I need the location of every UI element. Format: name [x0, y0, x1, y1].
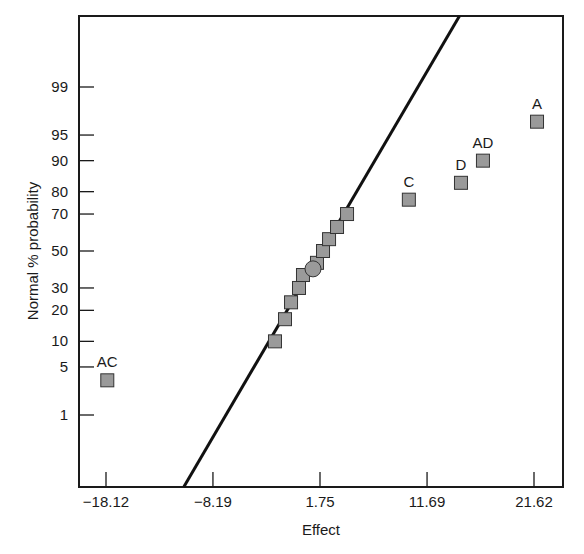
y-tick-label: 95 — [51, 126, 68, 143]
normal-probability-plot: 15102030507080909599 −18.12−8.191.7511.6… — [0, 0, 584, 554]
y-axis-title: Normal % probability — [24, 181, 41, 320]
y-tick-label: 50 — [51, 242, 68, 259]
point-label-d: D — [456, 156, 467, 173]
effect-point-marker — [531, 115, 544, 128]
effect-point-marker — [402, 193, 415, 206]
data-points: ACCDADA — [97, 95, 544, 387]
y-tick-label: 1 — [60, 406, 68, 423]
effect-point-marker — [341, 208, 354, 221]
effect-point-marker — [476, 154, 489, 167]
x-tick-label: −18.12 — [83, 493, 129, 510]
point-label-c: C — [403, 173, 414, 190]
y-axis-ticks: 15102030507080909599 — [51, 78, 94, 423]
center-point-marker — [305, 261, 321, 277]
effect-point-marker — [285, 296, 298, 309]
point-label-ac: AC — [97, 353, 118, 370]
y-tick-label: 10 — [51, 332, 68, 349]
point-label-a: A — [532, 95, 542, 112]
y-tick-label: 99 — [51, 78, 68, 95]
effect-point-marker — [317, 245, 330, 258]
x-tick-label: −8.19 — [194, 493, 232, 510]
x-tick-label: 1.75 — [305, 493, 334, 510]
y-tick-label: 90 — [51, 152, 68, 169]
effect-point-marker — [331, 220, 344, 233]
x-tick-label: 11.69 — [409, 493, 445, 510]
effect-point-marker — [278, 313, 291, 326]
x-axis-title: Effect — [302, 521, 341, 538]
y-tick-label: 5 — [60, 358, 68, 375]
y-tick-label: 70 — [51, 205, 68, 222]
x-tick-label: 21.62 — [515, 493, 553, 510]
point-label-ad: AD — [473, 134, 494, 151]
y-tick-label: 30 — [51, 279, 68, 296]
effect-point-marker — [268, 335, 281, 348]
x-axis-ticks: −18.12−8.191.7511.6921.62 — [83, 472, 553, 510]
effect-point-marker — [292, 281, 305, 294]
y-tick-label: 80 — [51, 183, 68, 200]
effect-point-marker — [454, 176, 467, 189]
effect-point-marker — [323, 233, 336, 246]
effect-point-marker — [101, 374, 114, 387]
y-tick-label: 20 — [51, 301, 68, 318]
